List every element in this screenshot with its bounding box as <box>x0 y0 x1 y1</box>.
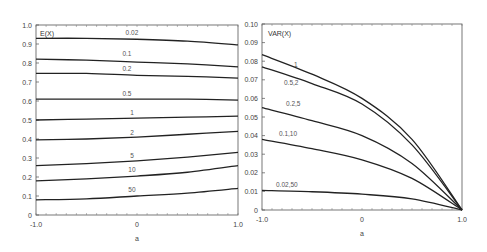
series-label: 5 <box>130 152 134 159</box>
series-line-1 <box>36 116 238 120</box>
x-axis-label: a <box>360 230 364 237</box>
chart-title: E(X) <box>40 30 54 38</box>
series-line-0-5 <box>36 99 238 100</box>
series-label: 0.02 <box>126 29 139 36</box>
series-label: 2 <box>130 129 134 136</box>
series-label: 0.2 <box>122 65 131 72</box>
series-label: 0.5 <box>122 90 131 97</box>
series-label: 0.2,5 <box>286 100 301 107</box>
series-label: 10 <box>128 166 136 173</box>
series-label: 1 <box>294 61 298 68</box>
y-tick-label: 0.06 <box>244 95 258 102</box>
series-label: 0.1,10 <box>279 130 297 137</box>
series-line-2 <box>36 131 238 140</box>
series-line-5 <box>36 152 238 165</box>
series-label: 0.1 <box>122 50 131 57</box>
y-tick-label: 0.01 <box>244 188 258 195</box>
y-tick-label: 0.1 <box>22 193 32 200</box>
x-tick-label: 0 <box>135 221 139 228</box>
series-line-50 <box>36 188 238 199</box>
y-tick-label: 0.5 <box>22 117 32 124</box>
y-tick-label: 0.02 <box>244 169 258 176</box>
x-tick-label: -1.0 <box>30 221 42 228</box>
y-tick-label: 0.9 <box>22 41 32 48</box>
series-line-0-5-2 <box>262 67 462 210</box>
series-line-0-02-50 <box>262 190 462 210</box>
y-tick-label: 0.8 <box>22 60 32 67</box>
y-tick-label: 0.03 <box>244 151 258 158</box>
series-line-0-1 <box>36 59 238 67</box>
series-label: 0.02,50 <box>276 181 298 188</box>
y-tick-label: 0.07 <box>244 76 258 83</box>
x-tick-label: 1.0 <box>233 221 243 228</box>
y-tick-label: 0.4 <box>22 136 32 143</box>
y-tick-label: 0.05 <box>244 114 258 121</box>
series-line-0-2 <box>36 73 238 78</box>
y-tick-label: 0.04 <box>244 132 258 139</box>
y-tick-label: 0.09 <box>244 39 258 46</box>
y-tick-label: 0.2 <box>22 174 32 181</box>
x-tick-label: 0 <box>360 216 364 223</box>
series-label: 1 <box>130 109 134 116</box>
series-line-0-02 <box>36 38 238 45</box>
panel-expectation: 00.10.20.30.40.50.60.70.80.91.0-1.001.0a… <box>22 22 243 243</box>
x-tick-label: -1.0 <box>256 216 268 223</box>
series-label: 0.5,2 <box>284 79 299 86</box>
chart-canvas: 00.10.20.30.40.50.60.70.80.91.0-1.001.0a… <box>0 0 487 252</box>
chart-title: VAR(X) <box>268 30 291 38</box>
y-tick-label: 0.10 <box>244 21 258 28</box>
y-tick-label: 0 <box>28 212 32 219</box>
series-label: 50 <box>128 186 136 193</box>
chart-figure: 00.10.20.30.40.50.60.70.80.91.0-1.001.0a… <box>0 0 487 252</box>
series-line-0-1-10 <box>262 139 462 210</box>
y-tick-label: 0.7 <box>22 79 32 86</box>
y-tick-label: 0 <box>254 207 258 214</box>
series-line-10 <box>36 166 238 181</box>
panel-variance: 00.010.020.030.040.050.060.070.080.090.1… <box>244 21 467 238</box>
x-axis-label: a <box>135 235 139 242</box>
y-tick-label: 1.0 <box>22 22 32 29</box>
y-tick-label: 0.08 <box>244 58 258 65</box>
x-tick-label: 1.0 <box>457 216 467 223</box>
y-tick-label: 0.6 <box>22 98 32 105</box>
y-tick-label: 0.3 <box>22 155 32 162</box>
